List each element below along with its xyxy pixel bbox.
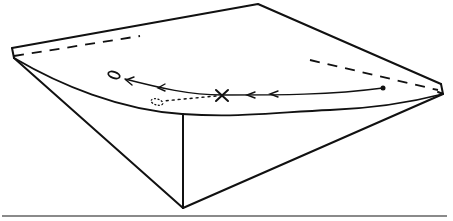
hatched-ellipse-icon	[150, 98, 163, 107]
trajectory	[107, 70, 385, 106]
bottom-rule	[2, 215, 447, 217]
end-ellipse-icon	[107, 70, 120, 80]
left-corner-edge	[12, 48, 14, 58]
left-side-edge	[14, 58, 183, 208]
top-back-edge	[12, 4, 441, 84]
right-corner-edge	[438, 84, 443, 94]
curved-surface-front-edge	[14, 58, 443, 115]
reference-plane-left-dashed	[14, 36, 140, 56]
arrow-icon	[270, 91, 278, 97]
start-dot-icon	[381, 86, 386, 91]
slab-top-edges	[12, 4, 443, 94]
slab-diagram	[0, 0, 453, 221]
dotted-branch-path	[163, 96, 216, 101]
